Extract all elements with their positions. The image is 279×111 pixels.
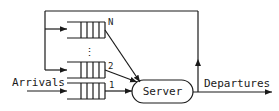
ellipsis: ⋮: [84, 46, 95, 59]
server: Server: [132, 80, 193, 103]
departures-label: Departures: [204, 77, 270, 90]
queue-n: N: [67, 17, 113, 38]
queue-1-label: 1: [109, 80, 114, 90]
server-label: Server: [143, 85, 183, 98]
queue-2: 2: [67, 61, 113, 78]
arrow-queue-n-to-server: [105, 30, 140, 82]
queueing-diagram: N ⋮ 2 1 Arrivals Server Departures: [0, 0, 279, 111]
queue-1: 1: [67, 80, 114, 99]
feedback-arrow-icon: [195, 59, 201, 66]
arrivals-label: Arrivals: [12, 76, 65, 89]
queue-n-label: N: [108, 17, 113, 27]
queue-2-label: 2: [108, 61, 113, 71]
